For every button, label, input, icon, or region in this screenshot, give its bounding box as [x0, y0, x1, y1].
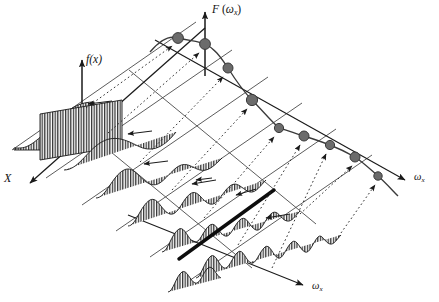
axis-label-fx: f(x) — [86, 54, 102, 66]
corr-arrow-7 — [272, 154, 326, 268]
pointer-2 — [128, 131, 152, 134]
corr-arrow-2 — [108, 53, 199, 133]
spectrum-marker-2 — [223, 63, 233, 73]
axis-label-omega-x-lower: ωx — [312, 281, 323, 293]
diagram-svg — [0, 0, 439, 302]
axis-label-omega-symbol: ω — [226, 3, 234, 15]
omega-sub-lower: x — [319, 285, 322, 293]
spectrum-marker-0 — [173, 33, 184, 44]
frequency-axis-upper-line — [155, 40, 405, 180]
axis-label-f-prefix: F — [212, 3, 219, 15]
waveform-5-harmonic-4 — [162, 211, 300, 252]
pointer-4 — [192, 180, 216, 184]
correspondence-arrows — [86, 46, 375, 268]
spectrum-marker-8 — [374, 172, 382, 180]
spectrum-marker-6 — [325, 140, 334, 149]
axis-label-paren-close: ) — [237, 3, 241, 15]
spectrum-marker-7 — [350, 152, 360, 162]
spectrum-marker-5 — [299, 131, 309, 141]
spectrum-marker-4 — [274, 123, 283, 132]
pointer-3 — [144, 161, 168, 164]
spectrum-marker-3 — [246, 94, 257, 105]
spectrum-marker-1 — [200, 39, 211, 50]
corr-arrow-8 — [300, 166, 352, 214]
pointer-5 — [196, 178, 212, 180]
corr-arrow-5 — [204, 137, 274, 218]
waveform-7-harmonic-6 — [168, 267, 221, 292]
omega-sub-upper: x — [421, 176, 424, 184]
axis-label-paren-open: ( — [219, 3, 226, 15]
axis-label-x: X — [4, 172, 11, 184]
axis-label-omega-x-upper: ωx — [414, 172, 425, 184]
corr-arrow-9 — [336, 185, 375, 240]
axis-label-f-omega-x: F (ωx) — [212, 4, 241, 17]
figure-canvas: f(x) X F (ωx) ωx ωx — [0, 0, 439, 302]
spectrum-markers — [173, 33, 383, 181]
